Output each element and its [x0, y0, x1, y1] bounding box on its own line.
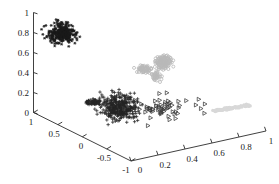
data-point-dot-streak [218, 109, 221, 112]
data-point-dot-streak [230, 107, 233, 110]
data-point-plus [133, 91, 136, 94]
y-tick-3 [211, 139, 213, 143]
data-point-dot-streak [214, 110, 217, 113]
data-point-dot-streak [234, 106, 237, 109]
y-tick-label-1: 0.2 [159, 160, 170, 170]
z-tick-label-1: 0.2 [18, 88, 29, 98]
cluster-5-streak-very-light [211, 103, 252, 114]
data-point-plus [93, 107, 96, 110]
data-point-plus [125, 121, 128, 124]
x-tick-2 [82, 134, 86, 137]
cluster-2-circle-light-gray [133, 54, 175, 84]
z-tick-4 [34, 33, 38, 34]
x-tick-label-3: -0.5 [97, 153, 112, 163]
data-point-asterisk [53, 25, 56, 28]
y-tick-1 [157, 151, 159, 155]
z-tick-1 [34, 93, 38, 94]
cluster-3-plus-dark [84, 88, 152, 126]
data-point-plus [136, 119, 139, 122]
z-tick-label-3: 0.6 [18, 48, 30, 58]
data-point-plus [117, 91, 120, 94]
y-tick-label-0: 0 [138, 165, 143, 175]
data-point-triangle-right [165, 91, 169, 95]
data-point-triangle-right [154, 99, 158, 103]
data-point-asterisk [53, 22, 56, 25]
data-point-circle-open [133, 66, 136, 69]
x-tick-label-0: 1 [29, 117, 34, 127]
data-point-plus [129, 92, 132, 95]
data-point-triangle-right [197, 97, 201, 101]
data-point-triangle-right [178, 103, 182, 107]
y-tick-label-5: 1 [269, 136, 274, 146]
x-tick-label-2: 0 [79, 141, 84, 151]
data-point-plus [134, 112, 137, 115]
plot-canvas: 0 0.2 0.4 0.6 0.8 1 1 0.5 0 -0.5 -1 0 0.… [0, 0, 279, 184]
z-tick-label-2: 0.4 [18, 68, 30, 78]
data-point-triangle-right [149, 116, 153, 120]
data-point-dot-streak [247, 105, 250, 108]
y-tick-2 [184, 145, 186, 149]
data-point-triangle-right [158, 92, 162, 96]
cluster-1-asterisk-upper-left [40, 18, 81, 47]
data-point-asterisk [40, 28, 43, 31]
data-point-plus [105, 118, 108, 121]
data-point-triangle-right [203, 111, 207, 115]
data-point-plus [133, 120, 136, 123]
y-tick-5 [265, 127, 267, 131]
data-point-asterisk [67, 45, 70, 48]
y-tick-label-3: 0.6 [213, 148, 225, 158]
data-series-layer [40, 18, 252, 127]
data-point-plus [95, 109, 98, 112]
data-point-plus [98, 90, 101, 93]
data-point-triangle-right [177, 99, 181, 103]
data-point-triangle-right [185, 99, 189, 103]
data-point-triangle-right [199, 107, 203, 111]
z-tick-label-5: 1 [25, 8, 30, 18]
x-tick-1 [58, 122, 62, 125]
x-tick-3 [107, 146, 111, 149]
z-tick-3 [34, 53, 38, 54]
scatter-plot-figure: 0 0.2 0.4 0.6 0.8 1 1 0.5 0 -0.5 -1 0 0.… [0, 0, 279, 184]
data-point-asterisk [50, 24, 53, 27]
data-point-circle-open [153, 65, 156, 68]
x-tick-label-4: -1 [122, 165, 130, 175]
data-point-triangle-right [176, 111, 180, 115]
data-point-triangle-right [158, 98, 162, 102]
data-point-plus [106, 123, 109, 126]
z-tick-5 [34, 13, 38, 14]
data-point-dot-streak [223, 107, 226, 110]
x-tick-label-1: 0.5 [48, 129, 60, 139]
data-point-asterisk [78, 35, 81, 38]
y-tick-4 [238, 133, 240, 137]
data-point-plus [95, 113, 98, 116]
data-point-triangle-right [140, 102, 144, 106]
data-point-triangle-right [174, 117, 178, 121]
data-point-triangle-right [194, 103, 198, 107]
data-point-circle-open [172, 65, 175, 68]
y-tick-label-2: 0.4 [186, 154, 198, 164]
z-tick-label-4: 0.8 [18, 28, 30, 38]
data-point-plus [117, 88, 120, 91]
data-point-circle-open [159, 81, 162, 84]
data-point-triangle-right [168, 118, 172, 122]
data-point-plus [135, 115, 138, 118]
x-tick-0 [34, 110, 38, 113]
data-point-asterisk [41, 33, 44, 36]
data-point-triangle-right [203, 102, 207, 106]
z-tick-2 [34, 73, 38, 74]
data-point-asterisk [73, 42, 76, 45]
data-point-asterisk [53, 45, 56, 48]
data-point-triangle-right [146, 124, 150, 128]
y-tick-label-4: 0.8 [240, 142, 252, 152]
data-point-dot-streak [225, 108, 228, 111]
